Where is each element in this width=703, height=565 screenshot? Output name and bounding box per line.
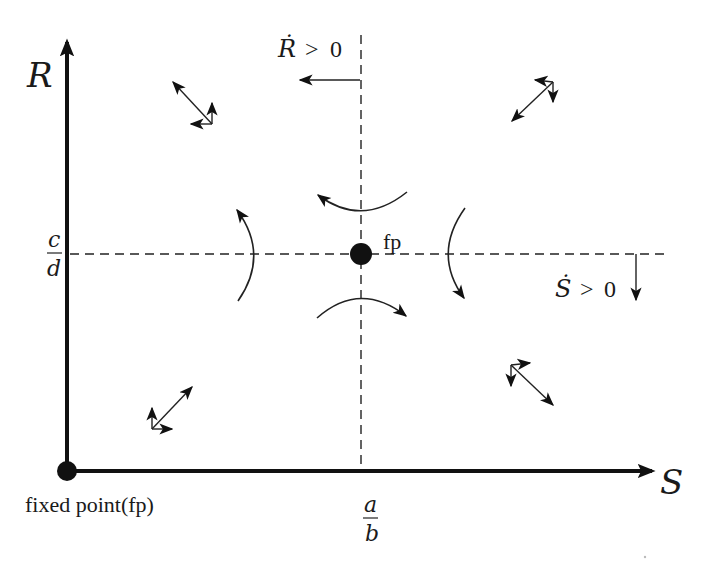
center-fp-label: fp	[383, 229, 401, 254]
r-axis-label: R	[26, 55, 53, 95]
trajectory-top	[318, 192, 407, 211]
scan-artifact-dot	[644, 556, 646, 558]
svg-text:c: c	[48, 227, 60, 252]
svg-text:d: d	[47, 256, 61, 281]
vector-top-left	[173, 82, 212, 124]
y-tick-fraction: c d	[47, 227, 62, 281]
svg-text:>: >	[580, 276, 594, 302]
svg-text:0: 0	[330, 36, 342, 62]
trajectory-left	[237, 210, 254, 301]
trajectory-right	[448, 208, 465, 298]
svg-text:Ṙ: Ṙ	[277, 34, 296, 63]
origin-label: fixed point(fp)	[25, 492, 154, 517]
vector-bottom-left	[152, 387, 192, 429]
vector-bottom-right	[511, 363, 553, 405]
svg-text:a: a	[364, 492, 377, 517]
x-tick-fraction: a b	[363, 492, 379, 546]
phase-plane-diagram: R S c d a b fixed point(fp) fp Ṙ > 0 Ṡ >…	[0, 0, 703, 565]
svg-text:Ṡ: Ṡ	[555, 274, 571, 303]
s-axis-label: S	[660, 462, 683, 502]
r-dot-condition-label: Ṙ > 0	[277, 34, 342, 63]
origin-fixed-point	[57, 461, 77, 481]
vector-top-right	[512, 80, 553, 121]
svg-text:0: 0	[604, 276, 616, 302]
center-fixed-point	[350, 243, 372, 265]
svg-text:b: b	[365, 521, 379, 546]
svg-text:>: >	[305, 36, 319, 62]
s-dot-condition-label: Ṡ > 0	[555, 274, 616, 303]
